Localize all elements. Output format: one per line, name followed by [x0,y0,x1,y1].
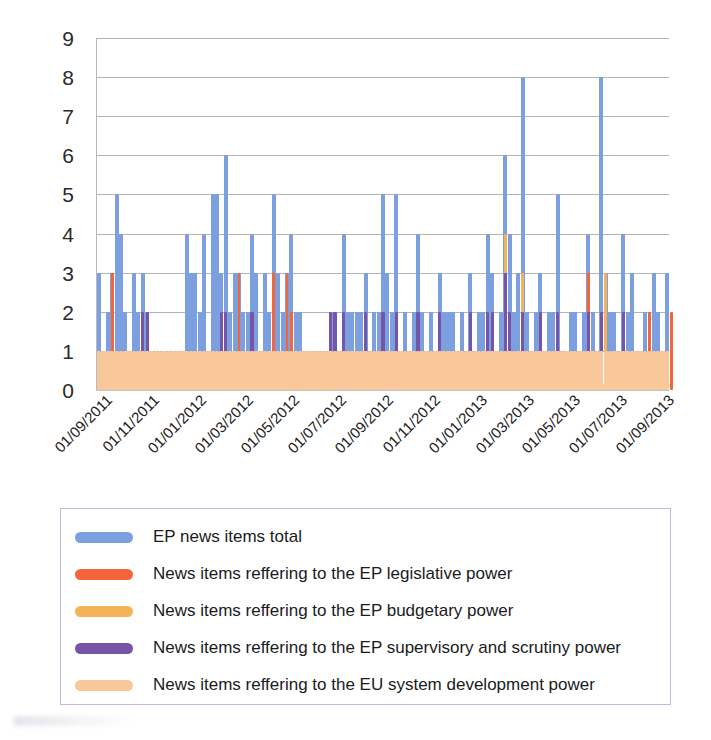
legend-item[interactable]: EP news items total [75,525,302,549]
y-tick-8: 8 [62,67,74,88]
y-tick-5: 5 [62,184,74,205]
plot-wrapper: 0123456789 01/09/201101/11/201101/01/201… [0,0,711,500]
legend-item-label: EP news items total [153,527,302,547]
y-tick-7: 7 [62,106,74,127]
scan-artifact [14,716,134,726]
legend-item[interactable]: News items reffering to the EP budgetary… [75,599,513,623]
legend-item[interactable]: News items reffering to the EU system de… [75,673,595,697]
y-axis-tick-labels: 0123456789 [0,0,96,400]
y-tick-4: 4 [62,223,74,244]
y-tick-2: 2 [62,301,74,322]
legend-swatch-total [75,532,133,543]
legend-item-label: News items reffering to the EU system de… [153,675,595,695]
legend-item-label: News items reffering to the EP legislati… [153,564,512,584]
legend-item-label: News items reffering to the EP superviso… [153,638,621,658]
y-tick-3: 3 [62,262,74,283]
legend-swatch-supervisory [75,643,133,654]
legend-item-label: News items reffering to the EP budgetary… [153,601,513,621]
plot-area [96,38,668,390]
y-tick-9: 9 [62,28,74,49]
legend-swatch-budgetary [75,606,133,617]
legend-swatch-legislative [75,569,133,580]
y-tick-1: 1 [62,340,74,361]
chart-legend: EP news items totalNews items reffering … [60,508,671,705]
x-axis-tick-labels: 01/09/201101/11/201101/01/201201/03/2012… [0,392,711,502]
bar [670,312,673,390]
legend-swatch-development [75,680,133,691]
bars-layer [97,38,669,390]
legend-item[interactable]: News items reffering to the EP legislati… [75,562,512,586]
legend-item[interactable]: News items reffering to the EP superviso… [75,636,621,660]
y-tick-6: 6 [62,145,74,166]
chart-figure: 0123456789 01/09/201101/11/201101/01/201… [0,0,711,740]
x-axis-line [96,390,668,391]
